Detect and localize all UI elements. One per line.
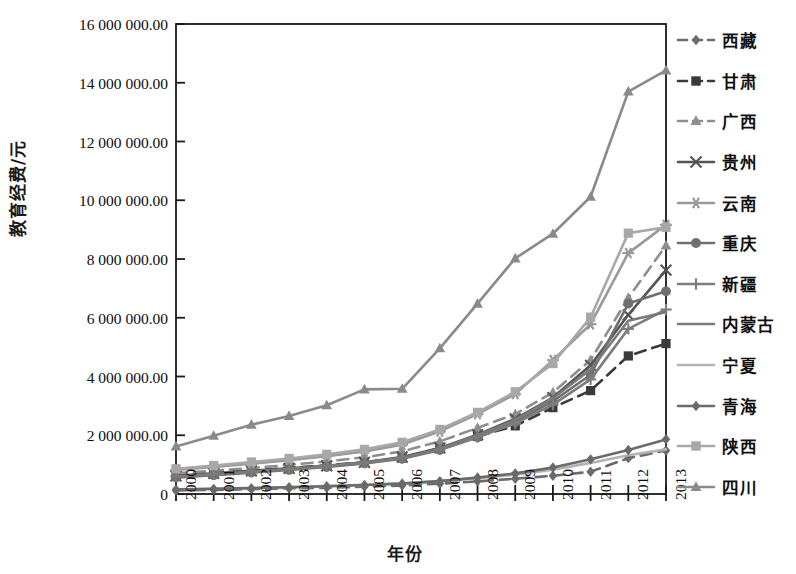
x-tick-label: 2004: [333, 469, 351, 500]
legend-label: 陕西: [722, 434, 757, 458]
legend-swatch-asterisk-icon: [676, 192, 716, 214]
x-tick-label: 2000: [182, 469, 200, 500]
legend-swatch-line-icon: [676, 354, 716, 376]
legend-label: 贵州: [722, 150, 757, 174]
legend-swatch-square-icon: [676, 70, 716, 92]
x-tick-label: 2010: [559, 469, 577, 500]
legend-swatch-line-icon: [676, 313, 716, 335]
legend-item-重庆[interactable]: 重庆: [676, 223, 792, 264]
legend-label: 云南: [722, 191, 757, 215]
legend-swatch-x-icon: [676, 151, 716, 173]
x-tick-label: 2007: [446, 469, 464, 500]
legend-item-新疆[interactable]: 新疆: [676, 264, 792, 305]
legend-item-四川[interactable]: 四川: [676, 467, 792, 508]
legend-item-甘肃[interactable]: 甘肃: [676, 61, 792, 102]
x-tick-label: 2003: [295, 469, 313, 500]
x-tick-label: 2005: [370, 469, 388, 500]
legend-item-宁夏[interactable]: 宁夏: [676, 345, 792, 386]
x-tick-label: 2011: [597, 470, 615, 500]
legend-item-广西[interactable]: 广西: [676, 101, 792, 142]
legend-label: 广西: [722, 109, 757, 133]
legend-item-内蒙古[interactable]: 内蒙古: [676, 304, 792, 345]
legend-label: 宁夏: [722, 353, 757, 377]
chart-figure: 教育经费/元 16 000 000.0014 000 000.0012 000 …: [0, 0, 796, 574]
legend-swatch-triangle-icon: [676, 110, 716, 132]
legend-item-西藏[interactable]: 西藏: [676, 20, 792, 61]
legend-label: 重庆: [722, 231, 757, 255]
x-tick-label: 2001: [220, 469, 238, 500]
x-tick-label: 2002: [257, 469, 275, 500]
legend-label: 西藏: [722, 28, 757, 52]
legend-label: 青海: [722, 394, 757, 418]
legend-swatch-circle-icon: [676, 232, 716, 254]
chart-legend: 西藏甘肃广西贵州云南重庆新疆内蒙古宁夏青海陕西四川: [676, 20, 792, 507]
legend-swatch-diamond-solid-icon: [676, 395, 716, 417]
legend-item-青海[interactable]: 青海: [676, 385, 792, 426]
legend-label: 新疆: [722, 272, 757, 296]
legend-item-贵州[interactable]: 贵州: [676, 142, 792, 183]
legend-swatch-plus-icon: [676, 273, 716, 295]
x-axis-title: 年份: [330, 540, 480, 565]
legend-label: 内蒙古: [722, 312, 775, 336]
legend-swatch-diamond-icon: [676, 29, 716, 51]
legend-label: 四川: [722, 475, 757, 499]
legend-swatch-triangle-solid-icon: [676, 476, 716, 498]
x-tick-label: 2006: [408, 469, 426, 500]
legend-item-陕西[interactable]: 陕西: [676, 426, 792, 467]
legend-swatch-square-light-icon: [676, 435, 716, 457]
x-tick-label: 2012: [634, 469, 652, 500]
x-tick-label: 2008: [484, 469, 502, 500]
legend-label: 甘肃: [722, 69, 757, 93]
x-tick-label: 2009: [521, 469, 539, 500]
legend-item-云南[interactable]: 云南: [676, 182, 792, 223]
